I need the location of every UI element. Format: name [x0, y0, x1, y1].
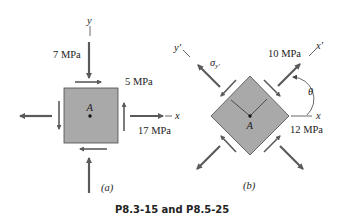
stress-x-prime-upper-arrow: [278, 64, 300, 86]
y-prime-axis-label: y′: [173, 42, 182, 53]
point-a-dot-b: [248, 114, 251, 117]
x-axis-label-b: x: [315, 110, 321, 121]
x-prime-axis-label: x′: [315, 40, 324, 51]
figure-a-label: (a): [101, 182, 114, 194]
sigma-y-prime-lower-arrow: [197, 146, 220, 169]
sigma-y-prime-label: σy′: [210, 57, 220, 70]
stress-y-label: 7 MPa: [53, 49, 81, 60]
point-a-label: A: [86, 102, 94, 113]
point-a-dot: [88, 114, 91, 117]
figure-a: y 7 MPa A 5 MPa 17 MPa x (a): [20, 15, 180, 194]
figure-caption: P8.3-15 and P8.5-25: [115, 204, 229, 215]
shear-label: 5 MPa: [125, 76, 153, 87]
figure-b: A y′ σy′ x′ 10 MPa x θ 12 MPa (b): [173, 40, 324, 192]
y-axis-label: y: [86, 15, 92, 26]
x-axis-label: x: [174, 110, 180, 121]
y-prime-axis-line: [183, 50, 190, 57]
shear-label-b: 12 MPa: [290, 124, 323, 135]
stress-element-diagram: y 7 MPa A 5 MPa 17 MPa x (a) A: [0, 0, 341, 224]
stress-x-prime-lower-arrow: [280, 146, 303, 169]
x-prime-axis-line: [309, 49, 316, 56]
stress-x-prime-label: 10 MPa: [268, 48, 301, 59]
theta-label: θ: [308, 86, 313, 97]
point-a-label-b: A: [246, 120, 254, 131]
stress-x-label: 17 MPa: [138, 125, 171, 136]
figure-b-label: (b): [243, 180, 256, 192]
